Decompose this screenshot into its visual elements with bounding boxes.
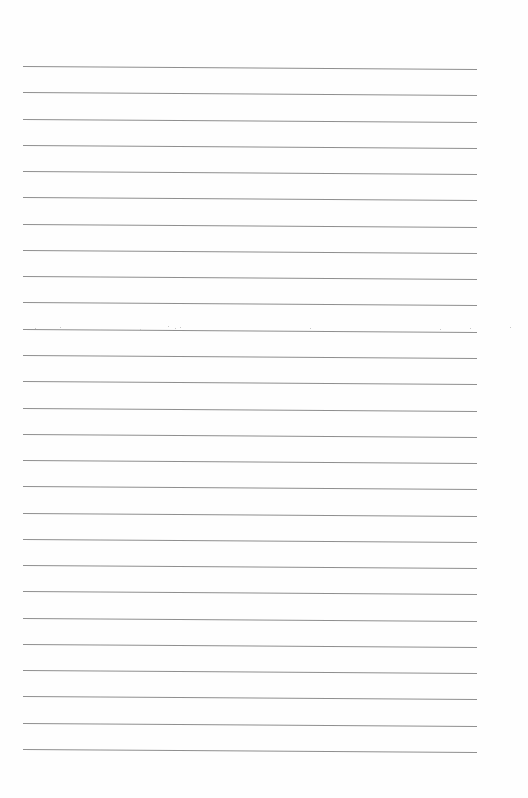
ruled-line [23,644,477,648]
ruled-line [23,513,477,517]
ruled-line [23,565,477,569]
ruled-line [23,119,477,123]
ruled-line [23,355,477,359]
ruled-line [23,171,477,175]
ruled-line [23,250,477,254]
ruled-line [23,276,477,280]
ruled-line [23,460,477,464]
ruled-line [23,197,477,201]
ruled-line [23,66,477,70]
ruled-line [23,749,477,753]
ruled-line [23,618,477,622]
ruled-line [23,696,477,700]
ruled-line [23,434,477,438]
ruled-line [23,408,477,412]
ruled-line [23,224,477,228]
lined-paper-page [0,0,528,798]
ruled-line [23,92,477,96]
ruled-line [23,145,477,149]
ruled-line [23,539,477,543]
ruled-line [23,591,477,595]
scan-specks [30,326,528,332]
ruled-line [23,381,477,385]
ruled-line [23,670,477,674]
ruled-line [23,723,477,727]
ruled-line [23,486,477,490]
ruled-line [23,302,477,306]
